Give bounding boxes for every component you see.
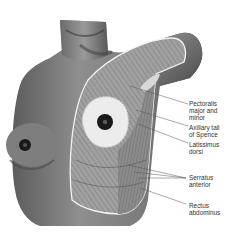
label-serratus: Serratus anterior (189, 174, 213, 188)
label-rectus: Rectus abdominus (189, 202, 220, 216)
label-latissimus: Latissimus dorsi (189, 141, 219, 155)
label-pectoralis: Pectoralis major and minor (189, 100, 217, 121)
label-axillary-tail: Axillary tail of Spence (189, 124, 220, 138)
